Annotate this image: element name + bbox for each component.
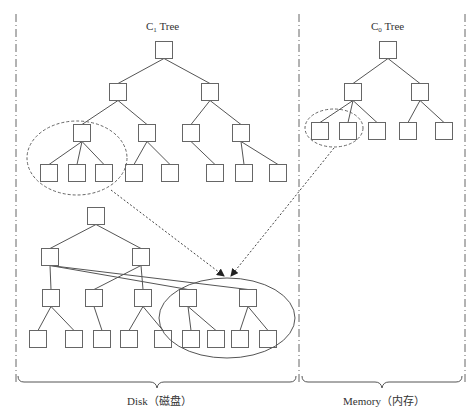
c1-top-edge <box>82 142 104 165</box>
c1-top-node-box <box>96 165 113 182</box>
c0-node-box <box>345 84 362 101</box>
c1-bottom-edge <box>248 307 268 331</box>
c1-title-suffix: Tree <box>157 20 179 32</box>
c1-bottom-node-box <box>121 331 138 348</box>
c0-node-box <box>400 123 417 140</box>
c1-bottom-node-box <box>208 331 225 348</box>
c1-top-edge <box>118 101 147 125</box>
c1-bottom-node-box <box>30 331 47 348</box>
c1-top-node-box <box>183 125 200 142</box>
c1-top-node-box <box>110 84 127 101</box>
c1-bottom-node-box <box>232 331 249 348</box>
c1-top-edge <box>147 142 170 165</box>
c1-bottom-edge <box>51 307 74 331</box>
c1-top-edge <box>191 142 215 165</box>
c1-bottom-edge <box>50 266 248 290</box>
c1-top-edge <box>118 59 164 84</box>
c0-tree-title: C0 Tree <box>371 20 404 34</box>
c1-bottom-node-box <box>42 249 59 266</box>
c1-bottom-node-box <box>135 290 152 307</box>
c1-top-edge <box>241 142 278 165</box>
c0-edge <box>408 101 420 123</box>
c1-bottom-node-box <box>86 290 103 307</box>
c1-bottom-edge <box>50 266 51 290</box>
c1-bottom-edge <box>188 307 191 331</box>
region-braces <box>18 376 462 388</box>
c1-bottom-node-box <box>180 290 197 307</box>
c0-node-box <box>436 123 453 140</box>
c1-top-node-box <box>69 165 86 182</box>
c1-bottom-edge <box>94 266 141 290</box>
c0-edge <box>388 59 420 84</box>
c1-top-node-box <box>233 125 250 142</box>
c1-bottom-node-box <box>88 208 105 225</box>
c1-top-node-box <box>207 165 224 182</box>
tree-nodes <box>30 42 453 348</box>
c1-top-node-box <box>74 125 91 142</box>
c0-edge <box>353 59 388 84</box>
c1-top-node-box <box>270 165 287 182</box>
c1-top-edge <box>241 142 244 165</box>
disk-region-label: Disk（磁盘） <box>127 392 192 408</box>
c1-top-node-box <box>202 84 219 101</box>
c1-top-edge <box>82 101 118 125</box>
c1-bottom-edge <box>38 307 51 331</box>
disk-brace <box>18 376 296 388</box>
c1-bottom-edge <box>50 225 96 249</box>
c1-bottom-node-box <box>133 249 150 266</box>
c1-top-edge <box>191 101 210 125</box>
memory-brace <box>302 376 462 388</box>
c1-bottom-edge <box>96 225 141 249</box>
c1-bottom-node-box <box>94 331 111 348</box>
c1-bottom-edge <box>188 307 216 331</box>
c1-top-edge <box>210 101 241 125</box>
c0-title-suffix: Tree <box>382 20 404 32</box>
c1-bottom-edge <box>240 307 248 331</box>
lsm-tree-diagram: C1 Tree C0 Tree Disk（磁盘） Memory（内存） <box>0 0 472 416</box>
c1-top-node-box <box>139 125 156 142</box>
c1-top-node-box <box>236 165 253 182</box>
c0-node-box <box>412 84 429 101</box>
memory-region-label: Memory（内存） <box>343 392 425 408</box>
c1-tree-title: C1 Tree <box>146 20 179 34</box>
c1-top-node-box <box>126 165 143 182</box>
c0-node-box <box>380 42 397 59</box>
c0-node-box <box>369 123 386 140</box>
c0-edge <box>320 101 353 123</box>
c0-node-box <box>312 123 329 140</box>
c1-top-edge <box>49 142 82 165</box>
c1-top-node-box <box>162 165 179 182</box>
c1-bottom-edge <box>94 307 102 331</box>
c1-bottom-node-box <box>240 290 257 307</box>
diagram-canvas <box>0 0 472 416</box>
merged-subtree-ellipse <box>159 278 295 358</box>
c1-top-node-box <box>156 42 173 59</box>
c1-top-edge <box>134 142 147 165</box>
c1-bottom-edge <box>129 307 143 331</box>
c0-edge <box>420 101 444 123</box>
c1-bottom-node-box <box>183 331 200 348</box>
c0-edge <box>353 101 377 123</box>
c1-bottom-node-box <box>43 290 60 307</box>
c1-top-edge <box>164 59 210 84</box>
c1-top-node-box <box>41 165 58 182</box>
c1-bottom-edge <box>50 266 188 290</box>
c0-node-box <box>340 123 357 140</box>
c1-to-merge-arrow <box>111 190 224 276</box>
c1-bottom-node-box <box>260 331 277 348</box>
c1-bottom-edge <box>141 266 143 290</box>
c1-bottom-node-box <box>66 331 83 348</box>
